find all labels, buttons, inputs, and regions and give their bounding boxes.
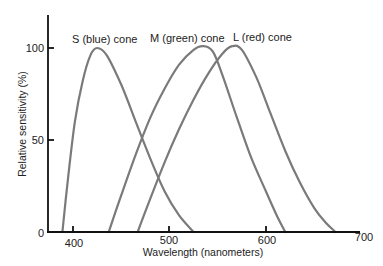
s-cone-label: S (blue) cone xyxy=(72,33,137,45)
l-cone-curve xyxy=(138,46,336,232)
curves-group xyxy=(62,46,335,232)
l-cone-label: L (red) cone xyxy=(233,31,292,43)
x-tick-label-500: 500 xyxy=(160,234,178,246)
m-cone-label: M (green) cone xyxy=(150,32,225,44)
x-axis-title: Wavelength (nanometers) xyxy=(143,246,263,258)
y-tick-label-0: 0 xyxy=(38,227,44,239)
y-axis-title: Relative sensitivity (%) xyxy=(16,71,28,177)
y-tick-label-50: 50 xyxy=(32,134,44,146)
x-tick-label-400: 400 xyxy=(65,237,83,249)
cone-sensitivity-chart: 100 50 0 400 500 600 700 Wavelength (nan… xyxy=(0,0,383,266)
m-cone-curve xyxy=(109,46,286,232)
x-tick-label-600: 600 xyxy=(258,234,276,246)
y-tick-label-100: 100 xyxy=(26,42,44,54)
x-tick-label-700: 700 xyxy=(355,231,373,243)
